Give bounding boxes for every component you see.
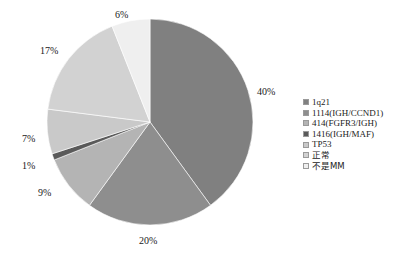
- legend-swatch-icon: [303, 99, 309, 105]
- slice-label-414: 9%: [38, 187, 51, 198]
- legend-swatch-icon: [303, 131, 309, 137]
- pie-chart-area: 40% 20% 9% 1% 7% 17% 6%: [0, 0, 300, 265]
- pie-svg: [46, 18, 254, 226]
- legend-swatch-icon: [303, 163, 309, 169]
- legend-item[interactable]: 1114(IGH/CCND1): [303, 108, 415, 119]
- legend-item[interactable]: 不是MM: [303, 161, 415, 172]
- legend-item-label: 1114(IGH/CCND1): [312, 108, 383, 119]
- legend-item-label: 不是MM: [312, 161, 345, 172]
- pie-graphic: [46, 18, 254, 226]
- slice-label-bushimm: 6%: [115, 9, 128, 20]
- slice-label-tp53: 7%: [22, 133, 35, 144]
- legend-item-label: 414(FGFR3/IGH): [312, 118, 377, 129]
- legend-swatch-icon: [303, 152, 309, 158]
- slice-label-1114: 20%: [139, 235, 157, 246]
- legend-item[interactable]: 1q21: [303, 97, 415, 108]
- legend-swatch-icon: [303, 142, 309, 148]
- slice-label-1q21: 40%: [257, 86, 275, 97]
- legend-item[interactable]: TP53: [303, 139, 415, 150]
- slice-label-1416: 1%: [22, 160, 35, 171]
- legend-item[interactable]: 正常: [303, 150, 415, 161]
- legend-item[interactable]: 1416(IGH/MAF): [303, 129, 415, 140]
- legend-item[interactable]: 414(FGFR3/IGH): [303, 118, 415, 129]
- chart-legend: 1q211114(IGH/CCND1)414(FGFR3/IGH)1416(IG…: [303, 97, 415, 171]
- legend-swatch-icon: [303, 110, 309, 116]
- legend-item-label: 正常: [312, 150, 330, 161]
- legend-item-label: TP53: [312, 139, 332, 150]
- legend-item-label: 1q21: [312, 97, 330, 108]
- legend-swatch-icon: [303, 120, 309, 126]
- slice-label-zhengchang: 17%: [40, 45, 58, 56]
- legend-item-label: 1416(IGH/MAF): [312, 129, 374, 140]
